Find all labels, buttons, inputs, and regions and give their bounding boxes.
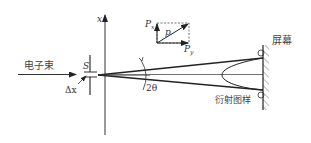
p-label: p [165,27,171,37]
electron-diffraction-diagram: x 电子束 S Δx 2θ 衍射图样 屏幕 [0,0,311,143]
angle-marker: 2θ [139,57,157,93]
py-label: Py [183,44,194,56]
diffraction-rays [98,58,263,90]
pattern-label: 衍射图样 [215,94,251,105]
screen: 屏幕 [263,34,292,110]
slit-width-label: Δx [65,85,77,95]
x-axis-label: x [97,14,102,24]
slit-label: S [83,61,89,71]
momentum-vector-diagram: Px p Py [144,19,194,56]
px-label: Px [144,19,155,30]
electron-beam: 电子束 [18,59,76,75]
screen-label: 屏幕 [272,34,292,46]
electron-beam-label: 电子束 [24,59,54,71]
angle-label: 2θ [146,83,157,93]
